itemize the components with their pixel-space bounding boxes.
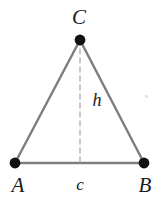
vertex-label-a: A	[12, 175, 25, 196]
vertex-label-c: C	[72, 7, 86, 28]
geometry-figure: C A B h c	[0, 0, 167, 203]
vertex-dot-b	[139, 158, 150, 169]
base-label-c: c	[76, 176, 84, 193]
edge-a-to-c	[15, 40, 80, 163]
altitude-label-h: h	[93, 91, 102, 109]
vertex-label-b: B	[139, 175, 152, 196]
scan-speck-artifact	[145, 95, 148, 98]
vertex-dot-c	[75, 35, 86, 46]
vertex-dot-a	[10, 158, 21, 169]
edge-c-to-b	[80, 40, 144, 163]
